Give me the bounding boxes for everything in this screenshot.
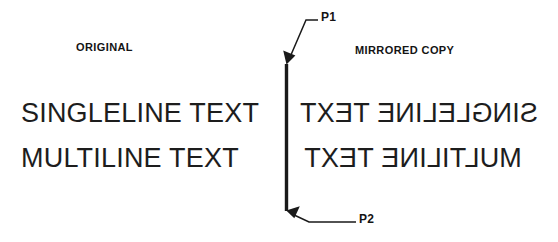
p2-leader-line	[292, 214, 356, 222]
mirror-axis-graphics	[0, 0, 558, 242]
p1-leader-line	[291, 20, 319, 56]
mirror-diagram-canvas: ORIGINAL MIRRORED COPY SINGLELINE TEXT M…	[0, 0, 558, 242]
p2-point-label: P2	[359, 212, 374, 226]
p1-arrowhead-icon	[283, 51, 295, 65]
p1-point-label: P1	[321, 10, 336, 24]
